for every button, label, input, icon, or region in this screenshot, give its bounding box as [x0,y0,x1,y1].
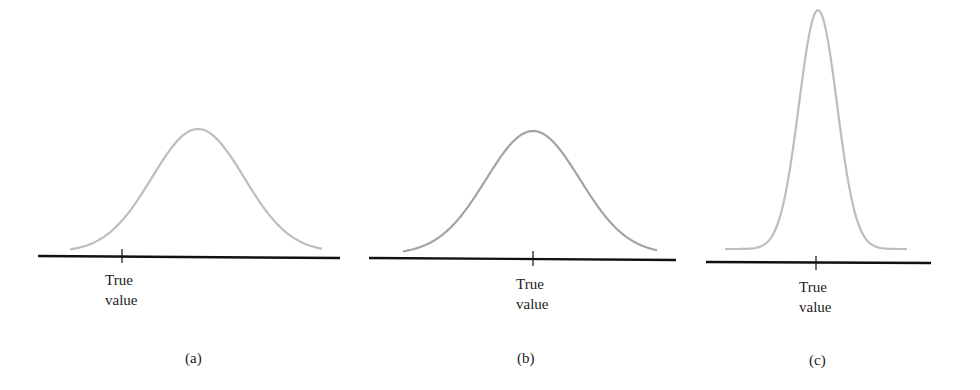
figure: True value True value True value (a) (b)… [0,0,980,390]
axis-b [369,258,676,260]
true-value-label-a: True value [105,270,137,310]
panel-c [706,10,931,270]
caption-b: (b) [517,350,535,367]
true-value-label-b: True value [516,274,548,314]
panel-a [38,129,340,263]
caption-a: (a) [185,350,202,367]
axis-a [38,256,340,258]
panel-b [369,131,676,266]
label-line2: value [799,297,831,317]
curve-b [403,131,657,251]
label-line1: True [516,274,548,294]
curve-a [70,129,322,249]
label-line2: value [105,290,137,310]
axis-c [706,262,931,263]
true-value-label-c: True value [799,277,831,317]
curve-c [725,10,907,249]
caption-c: (c) [809,352,826,369]
label-line1: True [799,277,831,297]
label-line1: True [105,270,137,290]
figure-graphics [0,0,980,390]
label-line2: value [516,294,548,314]
